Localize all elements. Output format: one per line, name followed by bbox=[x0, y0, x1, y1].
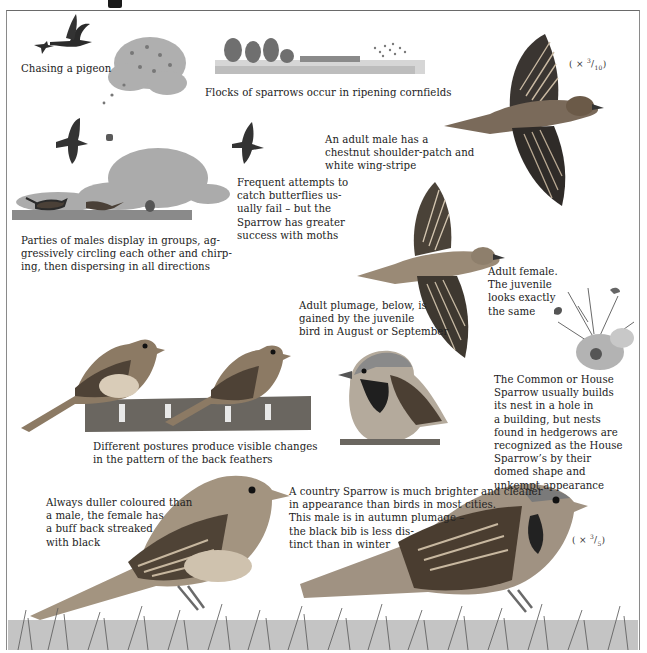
scale-numerator: 3 bbox=[587, 57, 591, 64]
caption-parties-display: Parties of males display in groups, ag- … bbox=[21, 234, 232, 274]
scale-numerator: 3 bbox=[590, 533, 594, 540]
title-fragment bbox=[108, 0, 122, 8]
scale-denominator: 10 bbox=[594, 64, 602, 71]
page-top-strip bbox=[0, 0, 647, 9]
hedgerow-nest-illustration bbox=[548, 282, 643, 377]
male-perched-illustration bbox=[330, 345, 455, 455]
caption-adult-male: An adult male has a chestnut shoulder-pa… bbox=[325, 133, 474, 173]
caption-flocks-cornfields: Flocks of sparrows occur in ripening cor… bbox=[205, 86, 452, 99]
caption-adult-female: Adult female. The juvenile looks exactly… bbox=[488, 265, 558, 318]
sparrow-chasing-pigeon-illustration bbox=[32, 12, 97, 57]
males-display-scene-illustration bbox=[8, 110, 233, 225]
grass-foreground-illustration bbox=[8, 590, 638, 650]
scale-prefix: ( × bbox=[569, 59, 587, 69]
caption-chasing-pigeon: Chasing a pigeon bbox=[21, 62, 111, 75]
scale-suffix: ) bbox=[603, 59, 607, 69]
caption-country-sparrow: A country Sparrow is much brighter and c… bbox=[289, 485, 543, 551]
caption-postures: Different postures produce visible chang… bbox=[93, 440, 318, 466]
scale-marker-top: ( × 3/10) bbox=[569, 57, 607, 71]
caption-nest: The Common or House Sparrow usually buil… bbox=[494, 373, 623, 492]
juveniles-on-post-illustration bbox=[15, 300, 315, 440]
scale-prefix: ( × bbox=[572, 535, 590, 545]
caption-butterflies: Frequent attempts to catch butterflies u… bbox=[237, 176, 348, 242]
scale-marker-bottom: ( × 3/5) bbox=[572, 533, 605, 547]
cornfield-landscape-illustration bbox=[205, 28, 435, 83]
scale-suffix: ) bbox=[602, 535, 606, 545]
butterfly-chase-illustration bbox=[228, 120, 268, 165]
caption-female-duller: Always duller coloured than a male, the … bbox=[46, 496, 192, 549]
caption-adult-plumage: Adult plumage, below, is gained by the j… bbox=[299, 299, 448, 339]
